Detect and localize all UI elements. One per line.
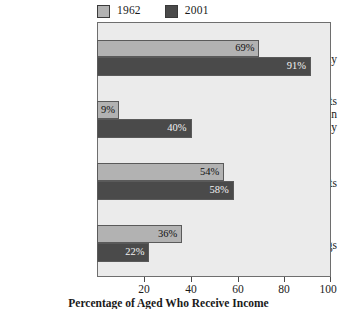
bar-retirement-benefits-1962: 9% (97, 101, 119, 119)
x-tick-label-80: 80 (264, 283, 304, 295)
bar-social-security-1962: 69% (97, 40, 259, 57)
bar-value-label: 22% (125, 247, 144, 258)
plot-inner: 69% 91% 9% 40% 54% 58% 36% (98, 23, 330, 276)
bar-retirement-benefits-2001: 40% (97, 119, 192, 138)
x-tick-60 (238, 277, 239, 282)
legend-label-1962: 1962 (117, 5, 141, 17)
bar-value-label: 58% (209, 185, 228, 196)
bar-earnings-1962: 36% (97, 225, 182, 243)
legend-label-2001: 2001 (185, 5, 209, 17)
x-tick-label-40: 40 (171, 283, 211, 295)
x-tick-40 (191, 277, 192, 282)
bar-social-security-2001: 91% (97, 57, 311, 76)
x-tick-label-60: 60 (218, 283, 258, 295)
bar-value-label: 91% (287, 61, 306, 72)
bar-income-from-assets-1962: 54% (97, 163, 224, 181)
chart-legend: 1962 2001 (97, 2, 233, 20)
x-tick-label-100: 100 (308, 283, 342, 295)
x-tick-label-20: 20 (124, 283, 164, 295)
bar-value-label: 40% (167, 123, 186, 134)
legend-swatch-1962 (97, 5, 110, 18)
bar-value-label: 36% (158, 229, 177, 240)
bar-earnings-2001: 22% (97, 243, 149, 262)
legend-item-1962: 1962 (97, 5, 141, 18)
bar-value-label: 54% (200, 167, 219, 178)
x-tick-80 (284, 277, 285, 282)
x-tick-100 (330, 277, 331, 282)
x-axis-title: Percentage of Aged Who Receive Income (0, 297, 337, 309)
legend-swatch-2001 (165, 5, 178, 18)
bar-value-label: 9% (101, 105, 115, 116)
bar-income-from-assets-2001: 58% (97, 181, 234, 200)
plot-area: 69% 91% 9% 40% 54% 58% 36% (97, 22, 331, 277)
x-tick-20 (144, 277, 145, 282)
legend-item-2001: 2001 (165, 5, 209, 18)
bar-value-label: 69% (235, 43, 254, 54)
